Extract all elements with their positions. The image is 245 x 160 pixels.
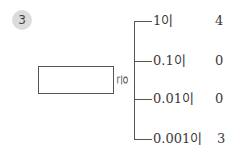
digit-hundredths: 0 <box>215 92 223 106</box>
place-label-ones: 1이 <box>153 14 173 28</box>
bracket-branch-thousandths <box>134 139 152 140</box>
place-label-hundredths: 0.01이 <box>153 92 194 106</box>
digit-thousandths: 3 <box>217 132 225 146</box>
bracket-branch-hundredths <box>134 99 152 100</box>
bracket-trunk <box>134 21 135 140</box>
topic-particle: 은 <box>115 75 131 85</box>
digit-ones: 4 <box>215 14 223 28</box>
place-label-tenths: 0.1이 <box>153 54 186 68</box>
answer-input-box[interactable] <box>38 66 114 94</box>
problem-number-badge: 3 <box>12 10 32 30</box>
digit-tenths: 0 <box>215 54 223 68</box>
bracket-branch-tenths <box>134 61 152 62</box>
bracket-branch-ones <box>134 21 152 22</box>
place-label-thousandths: 0.001이 <box>153 132 202 146</box>
